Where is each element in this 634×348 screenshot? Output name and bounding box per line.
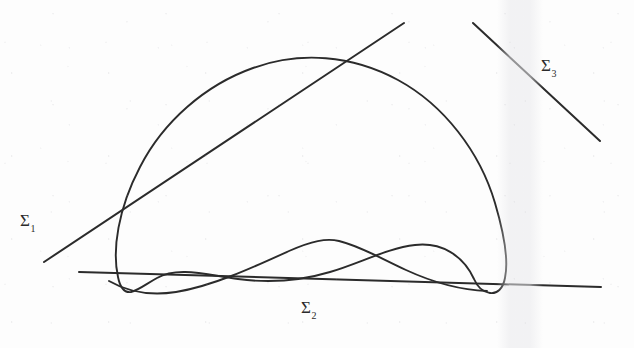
label-sigma-1: Σ1 xyxy=(20,212,35,232)
line-sigma-1 xyxy=(44,23,404,262)
label-sigma-2-subscript: 2 xyxy=(311,310,316,321)
line-sigma-2 xyxy=(79,272,601,287)
label-sigma-2: Σ2 xyxy=(301,299,316,319)
label-sigma-1-subscript: 1 xyxy=(30,223,35,234)
label-sigma-1-base: Σ xyxy=(20,211,30,230)
label-sigma-3-base: Σ xyxy=(541,56,551,75)
label-sigma-3: Σ3 xyxy=(541,57,556,77)
label-sigma-2-base: Σ xyxy=(301,298,311,317)
line-sigma-3 xyxy=(473,23,600,141)
diagram-svg xyxy=(0,0,634,348)
inner-hump-path xyxy=(109,240,487,294)
figure-canvas: Σ1 Σ2 Σ3 xyxy=(0,0,634,348)
label-sigma-3-subscript: 3 xyxy=(551,68,556,79)
